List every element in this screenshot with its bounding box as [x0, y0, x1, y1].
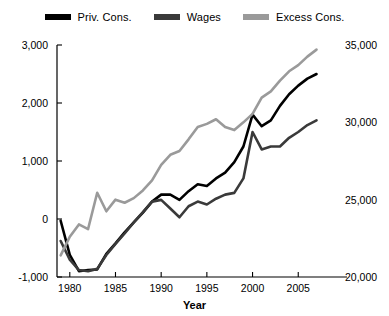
series-lines: [61, 50, 317, 272]
x-axis-ticks: [70, 272, 298, 277]
left-axis-tick-label: 0: [0, 214, 48, 225]
chart-plot-area: [0, 0, 389, 316]
right-axis-tick-label: 25,000: [345, 195, 377, 206]
right-axis-tick-label: 20,000: [345, 272, 377, 283]
x-axis-tick-label: 1990: [137, 283, 185, 294]
x-axis-tick-label: 1980: [46, 283, 94, 294]
left-axis-tick-label: 3,000: [0, 40, 48, 51]
left-axis-tick-label: 1,000: [0, 156, 48, 167]
series-line-priv-cons: [61, 74, 317, 271]
x-axis-tick-label: 2000: [229, 283, 277, 294]
x-axis-tick-label: 1995: [183, 283, 231, 294]
left-axis-tick-label: -1,000: [0, 272, 48, 283]
x-axis-title: Year: [0, 299, 389, 311]
chart-container: Priv. Cons. Wages Excess Cons. 3,0002,00…: [0, 0, 389, 316]
x-axis-tick-label: 1985: [91, 283, 139, 294]
left-axis-tick-label: 2,000: [0, 98, 48, 109]
x-axis-tick-label: 2005: [274, 283, 322, 294]
right-axis-tick-label: 35,000: [345, 40, 377, 51]
series-line-excess-cons: [61, 50, 317, 256]
right-axis-tick-label: 30,000: [345, 117, 377, 128]
